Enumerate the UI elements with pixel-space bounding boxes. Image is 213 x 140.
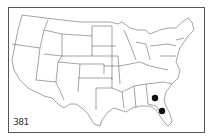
us-states-map [0, 0, 213, 140]
marker-florida [159, 108, 165, 114]
us-outline [12, 15, 194, 126]
occurrence-markers [152, 95, 165, 114]
figure-number-label: 381 [13, 117, 29, 127]
marker-georgia [152, 95, 158, 101]
